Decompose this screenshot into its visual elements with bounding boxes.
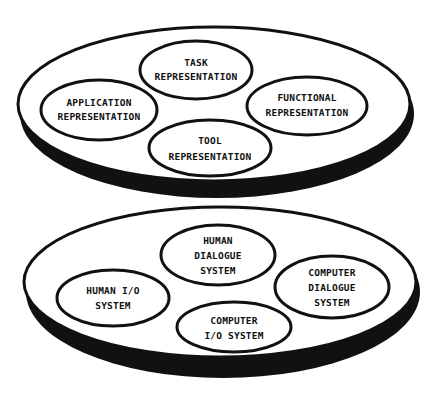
functional-ellipse [247,77,367,135]
node-human-io: HUMAN I/O SYSTEM [57,270,169,326]
node-label-line: REPRESENTATION [58,111,141,122]
node-label-line: REPRESENTATION [155,71,238,82]
node-label-line: REPRESENTATION [169,151,252,162]
node-label-line: TASK [184,57,208,68]
upper-disc: TASK REPRESENTATION APPLICATION REPRESEN… [18,27,414,198]
node-label-line: APPLICATION [66,97,131,108]
node-tool: TOOL REPRESENTATION [149,120,271,176]
node-functional: FUNCTIONAL REPRESENTATION [247,77,367,135]
node-label-line: SYSTEM [314,297,350,308]
node-label-line: HUMAN I/O [86,285,139,296]
application-ellipse [41,80,157,140]
node-label-line: FUNCTIONAL [277,92,336,103]
node-computer-io: COMPUTER I/O SYSTEM [177,302,291,352]
node-label-line: TOOL [198,135,222,146]
node-label-line: SYSTEM [200,265,236,276]
node-task: TASK REPRESENTATION [140,41,252,99]
node-label-line: DIALOGUE [194,250,241,261]
node-label-line: SYSTEM [95,300,131,311]
node-label-line: DIALOGUE [308,282,355,293]
node-label-line: I/O SYSTEM [204,330,263,341]
node-label-line: HUMAN [203,235,233,246]
node-label-line: COMPUTER [308,267,355,278]
node-application: APPLICATION REPRESENTATION [41,80,157,140]
node-computer-dialogue: COMPUTER DIALOGUE SYSTEM [275,256,389,318]
node-label-line: COMPUTER [210,315,257,326]
tool-ellipse [149,120,271,176]
layered-representation-diagram: TASK REPRESENTATION APPLICATION REPRESEN… [0,0,439,394]
computer-io-ellipse [177,302,291,352]
node-human-dialogue: HUMAN DIALOGUE SYSTEM [161,225,275,285]
human-io-ellipse [57,270,169,326]
node-label-line: REPRESENTATION [266,107,349,118]
task-ellipse [140,41,252,99]
lower-disc: HUMAN DIALOGUE SYSTEM HUMAN I/O SYSTEM C… [24,206,420,378]
